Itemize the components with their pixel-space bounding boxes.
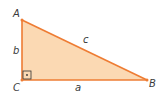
right-angle-dot	[26, 74, 28, 76]
vertex-b-label: B	[149, 78, 156, 89]
vertex-c-label: C	[13, 82, 20, 92]
side-a-label: a	[75, 82, 81, 92]
triangle-diagram: A B C a b c	[0, 0, 162, 92]
vertex-c-point	[21, 79, 24, 82]
side-c-label: c	[83, 34, 89, 45]
vertex-a-point	[21, 19, 24, 22]
side-b-label: b	[13, 45, 19, 56]
vertex-a-label: A	[12, 8, 20, 19]
